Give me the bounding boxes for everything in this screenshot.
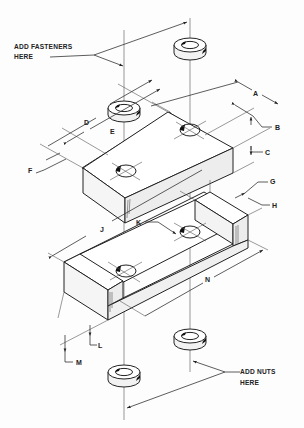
top-washer-right: [174, 38, 206, 60]
dim-label-f: F: [28, 167, 33, 174]
fasteners-note-line1: ADD FASTENERS: [14, 43, 73, 50]
top-washer-left: [108, 101, 140, 122]
dim-label-g: G: [270, 178, 276, 185]
dim-label-m: M: [76, 359, 82, 366]
dim-label-c: C: [265, 149, 270, 156]
dim-label-a: A: [253, 90, 258, 97]
drawing-canvas: ADD FASTENERS HERE D: [0, 0, 304, 428]
dim-label-d: D: [84, 119, 89, 126]
bottom-nut-left: [108, 365, 140, 387]
nuts-note-line1: ADD NUTS: [240, 368, 276, 375]
technical-drawing: ADD FASTENERS HERE D: [0, 0, 304, 428]
dim-label-n: N: [205, 276, 210, 283]
fasteners-note-line2: HERE: [14, 53, 34, 60]
dim-label-l: L: [98, 342, 103, 349]
bottom-nut-right: [174, 329, 206, 350]
dim-label-e: E: [110, 128, 115, 135]
dim-label-b: B: [275, 124, 280, 131]
lower-channel-block: [64, 192, 248, 320]
dim-label-h: H: [272, 202, 277, 209]
nuts-leader: [127, 361, 240, 408]
dim-label-j: J: [100, 226, 104, 233]
dim-label-k: K: [136, 219, 141, 226]
nuts-note-line2: HERE: [240, 379, 260, 386]
